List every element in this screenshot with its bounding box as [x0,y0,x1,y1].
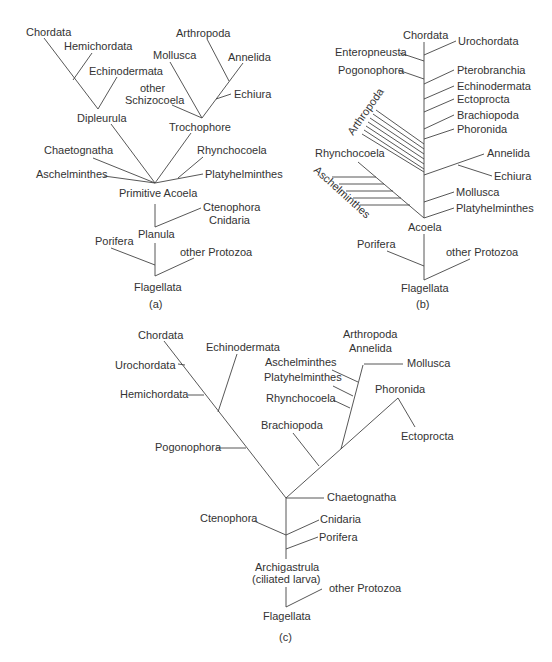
a-label-flagellata: Flagellata [134,281,183,293]
b-caption: (b) [416,298,429,310]
a-label-aschelminthes: Aschelminthes [36,168,108,180]
c-label-aschelminthes: Aschelminthes [265,356,337,368]
a-label-hemichordata: Hemichordata [64,40,133,52]
a-label-other: other [140,82,165,94]
b-label-urochordata: Urochordata [458,35,519,47]
c-label-chaetognatha: Chaetognatha [327,491,397,503]
c-label-cnidaria: Cnidaria [320,513,362,525]
a-label-dipleurula: Dipleurula [77,112,127,124]
a-label-ctenophora: Ctenophora [203,201,261,213]
b-label-ectoprocta: Ectoprocta [457,93,510,105]
a-label-arthropoda: Arthropoda [176,27,231,39]
a-label-chordata: Chordata [26,26,72,38]
a-label-porifera: Porifera [95,235,134,247]
b-label-brachiopoda: Brachiopoda [457,109,520,121]
a-label-schizocoela: Schizocoela [125,94,185,106]
panel-c-tree: Chordata Echinodermata Urochordata Hemic… [115,328,454,643]
phylogeny-figure: Chordata Hemichordata Echinodermata Dipl… [0,0,552,662]
a-label-annelida: Annelida [228,51,272,63]
b-label-echiura: Echiura [494,170,532,182]
c-label-ctenophora: Ctenophora [200,512,258,524]
b-label-arthropoda: Arthropoda [345,85,387,137]
b-label-echinodermata: Echinodermata [457,80,532,92]
a-label-rhynchocoela: Rhynchocoela [197,144,268,156]
a-caption: (a) [149,298,162,310]
c-label-hemichordata: Hemichordata [120,388,189,400]
b-label-flagellata: Flagellata [401,282,450,294]
b-label-porifera: Porifera [357,238,396,250]
c-label-porifera: Porifera [319,531,358,543]
b-label-acoela: Acoela [408,221,443,233]
c-label-ciliated-larva: (ciliated larva) [252,573,320,585]
c-label-platyhelminthes: Platyhelminthes [264,371,342,383]
b-label-pterobranchia: Pterobranchia [457,64,526,76]
a-label-mollusca: Mollusca [153,49,197,61]
c-label-phoronida: Phoronida [375,383,426,395]
c-label-ectoprocta: Ectoprocta [401,430,454,442]
a-label-planula: Planula [138,228,176,240]
c-label-other-protozoa: other Protozoa [329,582,402,594]
c-label-flagellata: Flagellata [263,610,312,622]
c-label-echinodermata: Echinodermata [206,341,281,353]
b-label-rhynchocoela: Rhynchocoela [315,147,386,159]
a-label-other-protozoa: other Protozoa [180,246,253,258]
a-label-platyhelminthes: Platyhelminthes [205,168,283,180]
b-label-phoronida: Phoronida [457,123,508,135]
b-label-mollusca: Mollusca [456,186,500,198]
b-label-enteropneusta: Enteropneusta [335,46,407,58]
a-label-primitive-acoela: Primitive Acoela [119,187,198,199]
b-label-aschelminthes: Aschelminthes [312,164,374,221]
c-label-annelida: Annelida [349,342,393,354]
a-label-echinodermata: Echinodermata [89,65,164,77]
c-label-pogonophora: Pogonophora [155,441,222,453]
a-label-chaetognatha: Chaetognatha [44,144,114,156]
c-label-arthropoda: Arthropoda [343,328,398,340]
b-label-annelida: Annelida [487,147,531,159]
b-label-chordata: Chordata [403,29,449,41]
panel-b-branches [332,41,492,280]
panel-a-tree: Chordata Hemichordata Echinodermata Dipl… [26,26,283,310]
c-label-mollusca: Mollusca [407,357,451,369]
c-label-rhynchocoela: Rhynchocoela [266,392,337,404]
a-label-trochophore: Trochophore [169,121,231,133]
a-label-cnidaria: Cnidaria [209,214,251,226]
panel-b-tree: Chordata Urochordata Enteropneusta Pogon… [312,29,534,310]
c-label-urochordata: Urochordata [115,359,176,371]
c-label-brachiopoda: Brachiopoda [261,419,324,431]
b-label-pogonophora: Pogonophora [338,64,405,76]
c-label-chordata: Chordata [138,329,184,341]
b-label-platyhelminthes: Platyhelminthes [456,202,534,214]
c-caption: (c) [279,631,292,643]
c-label-archigastrula: Archigastrula [255,561,320,573]
b-label-other-protozoa: other Protozoa [446,246,519,258]
a-label-echiura: Echiura [234,88,272,100]
